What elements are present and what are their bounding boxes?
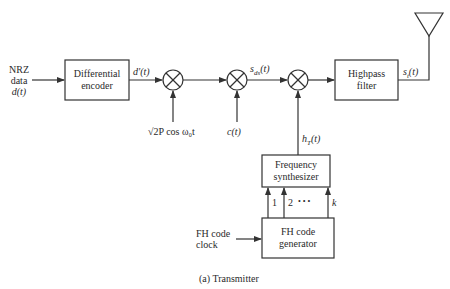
differential-encoder: Differential encoder: [65, 68, 129, 92]
carrier-label: √2P cos ω₀t: [148, 126, 195, 137]
bus-label-1: 1: [272, 197, 277, 208]
fh-code-generator: FH code generator: [262, 226, 334, 250]
bus-dots: • • •: [298, 196, 310, 207]
pn-code-label: c(t): [227, 126, 241, 137]
input-line-1: NRZ: [6, 64, 32, 75]
fhg-line-2: generator: [262, 238, 334, 250]
tx-tail: (t): [409, 66, 418, 77]
input-line-3: d(t): [6, 86, 32, 97]
figure-caption: (a) Transmitter: [199, 273, 259, 284]
hop-signal-label: hT(t): [302, 133, 320, 149]
fh-code-clock-label: FH code clock: [196, 228, 230, 250]
bus-label-2: 2: [288, 197, 293, 208]
tx-output-label: st(t): [403, 66, 418, 82]
de-line-2: encoder: [65, 80, 129, 92]
de-line-1: Differential: [65, 68, 129, 80]
bus-label-k: k: [332, 197, 336, 208]
frequency-synthesizer: Frequency synthesizer: [262, 159, 330, 183]
clock-line-1: FH code: [196, 228, 230, 239]
fhg-line-1: FH code: [262, 226, 334, 238]
hp-line-1: Highpass: [335, 68, 398, 80]
encoder-output-label: d′(t): [133, 66, 150, 77]
antenna-icon: [415, 13, 443, 36]
input-line-2: data: [6, 75, 32, 86]
hp-line-2: filter: [335, 80, 398, 92]
nrz-input-label: NRZ data d(t): [6, 64, 32, 97]
fs-line-2: synthesizer: [262, 171, 330, 183]
sds-tail: (t): [260, 63, 269, 74]
highpass-filter: Highpass filter: [335, 68, 398, 92]
fs-line-1: Frequency: [262, 159, 330, 171]
clock-line-2: clock: [196, 239, 230, 250]
sds-label: sds(t): [250, 63, 270, 79]
hop-tail: (t): [311, 133, 320, 144]
